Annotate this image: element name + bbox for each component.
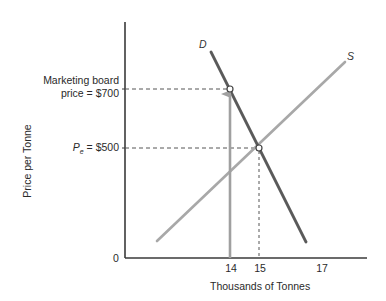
supply-curve (157, 62, 345, 241)
demand-label: D (199, 38, 207, 50)
chart-canvas (0, 0, 386, 301)
pe-symbol: P (73, 141, 80, 153)
equilibrium-price-label: Pe = $500 (73, 141, 119, 155)
x-axis-title: Thousands of Tonnes (210, 280, 310, 292)
equilibrium-point (256, 145, 262, 151)
marketing-board-label: Marketing board price = $700 (43, 74, 119, 100)
x-tick-17: 17 (316, 262, 328, 274)
marketing-board-point (227, 86, 233, 92)
marketing-board-label-line1: Marketing board (43, 74, 119, 87)
y-axis-title: Price per Tonne (21, 116, 33, 206)
x-tick-14: 14 (225, 262, 237, 274)
marketing-board-label-line2: price = $700 (43, 87, 119, 100)
x-tick-15: 15 (254, 262, 266, 274)
origin-label: 0 (113, 252, 119, 264)
pe-value: = $500 (84, 141, 119, 153)
supply-label: S (347, 50, 354, 62)
